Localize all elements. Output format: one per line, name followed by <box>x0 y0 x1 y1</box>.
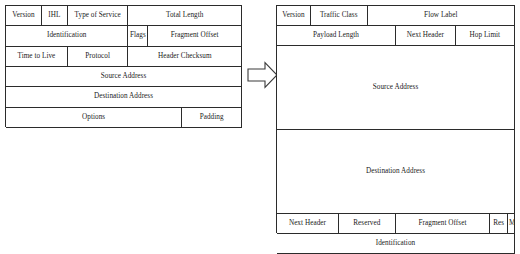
ipv6-field-version: Version <box>277 6 311 26</box>
ipv6-field-source-address: Source Address <box>277 46 515 130</box>
ipv4-field-identification: Identification <box>6 26 128 46</box>
ipv6-field-identification: Identification <box>277 234 515 254</box>
ipv4-field-header-checksum: Header Checksum <box>128 47 242 67</box>
ipv6-field-destination-address: Destination Address <box>277 130 515 214</box>
ipv4-row-5: Destination Address <box>6 87 242 107</box>
ipv4-field-version: Version <box>6 6 42 26</box>
ipv4-field-source-address: Source Address <box>6 67 242 87</box>
ipv6-row-4: Destination Address <box>277 130 515 214</box>
transform-arrow-icon <box>247 61 278 89</box>
ipv4-row-2: Identification Flags Fragment Offset <box>6 26 242 46</box>
ipv4-field-total-length: Total Length <box>128 6 242 26</box>
ipv6-row-5: Next Header Reserved Fragment Offset Res… <box>277 214 515 234</box>
ipv6-field-hop-limit: Hop Limit <box>456 26 515 46</box>
ipv6-field-res: Res <box>490 214 508 234</box>
ipv6-field-fragment-next-header: Next Header <box>277 214 339 234</box>
ipv4-field-type-of-service: Type of Service <box>68 6 129 26</box>
ipv6-row-2: Payload Length Next Header Hop Limit <box>277 26 515 46</box>
ipv6-row-1: Version Traffic Class Flow Label <box>277 6 515 26</box>
ipv6-field-flow-label: Flow Label <box>368 6 515 26</box>
ipv6-header-table: Version Traffic Class Flow Label Payload… <box>276 5 515 233</box>
ipv4-field-time-to-live: Time to Live <box>6 47 68 67</box>
ipv6-field-fragment-offset: Fragment Offset <box>396 214 490 234</box>
ipv4-field-destination-address: Destination Address <box>6 87 242 107</box>
ipv4-field-fragment-offset: Fragment Offset <box>148 26 242 46</box>
ipv4-field-padding: Padding <box>182 108 242 128</box>
ipv4-field-ihl: IHL <box>42 6 68 26</box>
ipv6-field-traffic-class: Traffic Class <box>311 6 368 26</box>
ipv4-field-protocol: Protocol <box>68 47 129 67</box>
ipv4-row-1: Version IHL Type of Service Total Length <box>6 6 242 26</box>
ipv4-row-3: Time to Live Protocol Header Checksum <box>6 47 242 67</box>
ipv6-row-6: Identification <box>277 234 515 254</box>
ipv6-field-next-header: Next Header <box>396 26 456 46</box>
ipv4-field-flags: Flags <box>128 26 148 46</box>
ipv4-row-4: Source Address <box>6 67 242 87</box>
ipv6-field-payload-length: Payload Length <box>277 26 396 46</box>
ipv6-row-3: Source Address <box>277 46 515 130</box>
ipv4-header-table: Version IHL Type of Service Total Length… <box>5 5 242 127</box>
ipv6-field-m-flag: M <box>508 214 515 234</box>
ipv4-field-options: Options <box>6 108 182 128</box>
ipv4-row-6: Options Padding <box>6 108 242 128</box>
ipv6-field-reserved: Reserved <box>339 214 396 234</box>
